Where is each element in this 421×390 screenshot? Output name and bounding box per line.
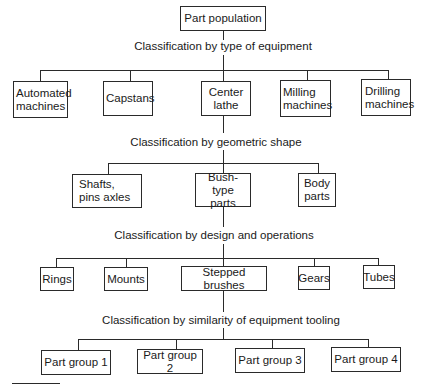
node-label: Capstans [106, 92, 155, 105]
node-label: Rings [42, 273, 71, 286]
root-node-part-population: Part population [180, 6, 266, 31]
node-milling-machines: Milling machines [280, 80, 331, 117]
connector [40, 70, 388, 71]
connector [78, 339, 369, 340]
node-part-group-4: Part group 4 [331, 347, 401, 372]
connector [108, 163, 319, 164]
node-label: Gears [298, 272, 329, 285]
footnote-divider [12, 383, 60, 384]
node-label: Shafts, pins axles [79, 178, 135, 204]
connector [130, 70, 131, 81]
connector [126, 258, 127, 267]
classification-label-equipment: Classification by type of equipment [134, 40, 312, 52]
node-rings: Rings [40, 267, 74, 291]
connector [56, 258, 57, 267]
node-automated-machines: Automated machines [13, 81, 68, 118]
node-stepped-brushes: Stepped brushes [181, 266, 267, 291]
connector [108, 163, 109, 174]
node-label: Body parts [303, 177, 331, 203]
node-part-group-1: Part group 1 [41, 350, 111, 375]
node-label: Bush-type parts [198, 171, 248, 210]
classification-label-equipment-tooling: Classification by similarity of equipmen… [102, 314, 340, 326]
node-label: Part population [184, 12, 261, 25]
connector [78, 339, 79, 350]
connector [223, 291, 224, 312]
connector [56, 258, 379, 259]
connector [40, 70, 41, 81]
connector [223, 70, 224, 81]
classification-label-design-operations: Classification by design and operations [114, 229, 313, 241]
node-drilling-machines: Drilling machines [361, 79, 411, 116]
node-label: Tubes [363, 271, 395, 284]
connector [223, 207, 224, 227]
connector [318, 163, 319, 173]
connector [314, 258, 315, 266]
node-center-lathe: Center lathe [201, 81, 251, 116]
node-label: Milling machines [283, 86, 332, 112]
connector [223, 328, 224, 339]
node-bush-type-parts: Bush-type parts [195, 173, 251, 207]
connector [223, 55, 224, 70]
node-label: Part group 1 [44, 356, 107, 369]
node-label: Mounts [107, 273, 145, 286]
node-mounts: Mounts [104, 267, 148, 291]
node-part-group-3: Part group 3 [235, 348, 305, 373]
connector [272, 339, 273, 348]
connector [176, 339, 177, 349]
connector [223, 116, 224, 133]
node-label: Drilling machines [365, 85, 414, 111]
node-body-parts: Body parts [298, 173, 336, 207]
node-label: Stepped brushes [184, 266, 264, 292]
node-tubes: Tubes [363, 265, 395, 289]
connector [223, 31, 224, 40]
node-capstans: Capstans [103, 81, 153, 116]
node-gears: Gears [298, 266, 330, 290]
node-label: Part group 4 [334, 353, 397, 366]
node-shafts-pins-axles: Shafts, pins axles [72, 174, 142, 208]
connector [223, 150, 224, 163]
connector [223, 244, 224, 258]
node-label: Part group 2 [140, 349, 200, 375]
node-label: Center lathe [209, 86, 244, 112]
node-label: Automated machines [16, 87, 72, 113]
node-label: Part group 3 [238, 354, 301, 367]
node-part-group-2: Part group 2 [137, 349, 203, 374]
classification-label-geometric-shape: Classification by geometric shape [130, 136, 301, 148]
